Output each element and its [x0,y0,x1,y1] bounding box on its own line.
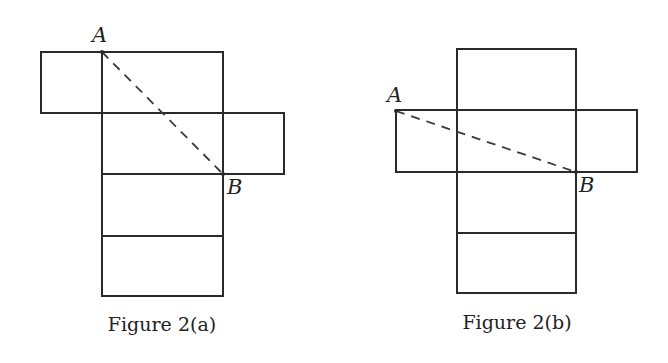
figure-a-point-b-dot [221,172,225,176]
figure-a-point-a-dot [100,50,104,54]
figure-b-shortest-path [396,111,576,172]
figure-a-point-a-label: A [90,23,107,47]
figure-b-left-flap [396,110,457,172]
figure-b-point-b-label: B [578,173,594,197]
diagram-canvas: A B Figure 2(a) A B Figure 2(b) [0,0,668,363]
figure-b-right-flap [576,110,637,172]
figure-a-right-flap [223,113,284,174]
figure-a: A B Figure 2(a) [41,23,284,335]
figure-a-caption: Figure 2(a) [108,313,216,335]
figure-b: A B Figure 2(b) [385,49,637,333]
figure-a-point-b-label: B [226,175,242,199]
figure-b-point-a-label: A [385,83,402,107]
figure-b-point-a-dot [394,109,398,113]
figure-a-left-flap [41,52,102,113]
figure-b-caption: Figure 2(b) [462,311,571,333]
figure-b-point-b-dot [574,170,578,174]
